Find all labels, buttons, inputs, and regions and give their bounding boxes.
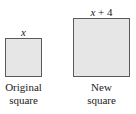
original-caption-line2: square: [0, 94, 47, 107]
new-square: [73, 18, 130, 77]
new-caption-line2: square: [73, 94, 130, 107]
original-caption: Original square: [0, 81, 47, 107]
original-side-label: x: [5, 27, 42, 38]
new-side-label: x + 4: [73, 7, 130, 18]
original-caption-line1: Original: [0, 81, 47, 94]
original-square: [5, 38, 42, 77]
new-side-label-increment: + 4: [95, 6, 112, 18]
new-caption-line1: New: [73, 81, 130, 94]
new-caption: New square: [73, 81, 130, 107]
